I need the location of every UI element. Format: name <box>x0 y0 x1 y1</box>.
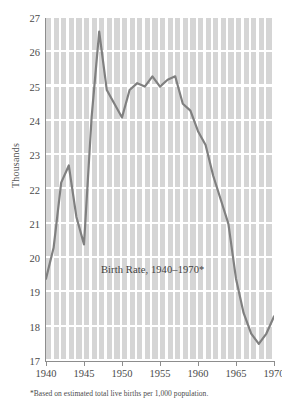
x-axis-tick-mark <box>236 362 237 366</box>
plot-area <box>46 18 274 361</box>
x-axis-tick-label: 1945 <box>64 368 104 379</box>
y-axis-tick-label: 22 <box>10 184 40 195</box>
x-axis-tick-mark <box>122 362 123 366</box>
y-axis-tick-label: 27 <box>10 13 40 24</box>
y-axis-tick-labels: 1718192021222324252627 <box>0 0 46 413</box>
y-axis-tick-label: 23 <box>10 150 40 161</box>
x-axis-tick-label: 1955 <box>140 368 180 379</box>
y-axis-tick-label: 21 <box>10 218 40 229</box>
x-axis-tick-label: 1950 <box>102 368 142 379</box>
y-axis-tick-label: 17 <box>10 356 40 367</box>
y-axis-tick-label: 26 <box>10 47 40 58</box>
x-axis-tick-mark <box>46 362 47 366</box>
y-axis-tick-label: 19 <box>10 287 40 298</box>
birth-rate-line-series <box>46 18 274 361</box>
x-axis-tick-label: 1960 <box>178 368 218 379</box>
y-axis-tick-label: 25 <box>10 81 40 92</box>
x-axis-tick-label: 1970 <box>254 368 282 379</box>
x-axis-tick-mark <box>198 362 199 366</box>
x-axis-tick-label: 1940 <box>26 368 66 379</box>
chart-inline-title: Birth Rate, 1940–1970* <box>101 264 204 275</box>
birth-rate-chart-figure: Thousands 1718192021222324252627 Birth R… <box>0 0 282 413</box>
y-axis-tick-label: 24 <box>10 115 40 126</box>
x-axis-tick-mark <box>274 362 275 366</box>
birth-rate-polyline <box>46 32 274 344</box>
y-axis-tick-label: 18 <box>10 321 40 332</box>
y-axis-tick-label: 20 <box>10 253 40 264</box>
x-axis-tick-mark <box>84 362 85 366</box>
chart-footnote: *Based on estimated total live births pe… <box>30 389 208 398</box>
x-axis-tick-mark <box>160 362 161 366</box>
x-axis-tick-label: 1965 <box>216 368 256 379</box>
